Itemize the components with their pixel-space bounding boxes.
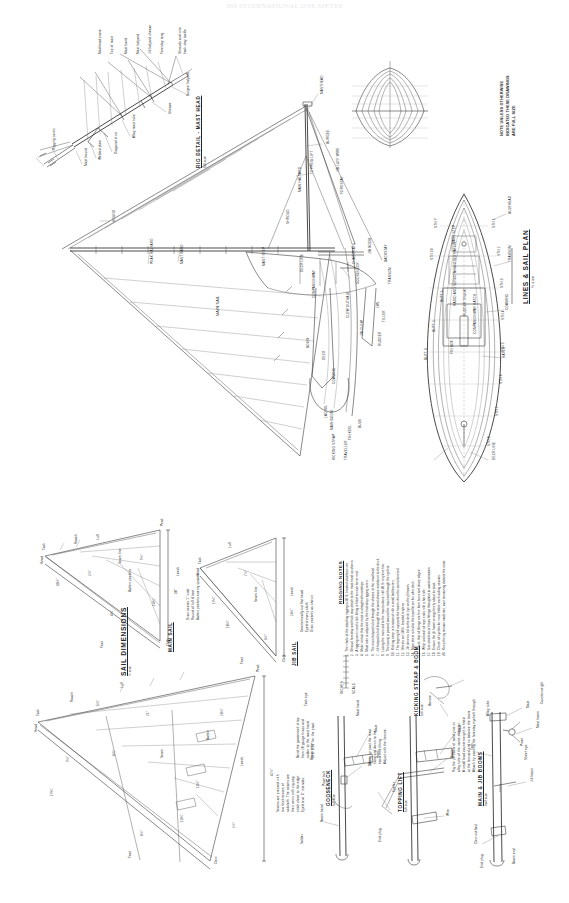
- masthead-label-11: Diagonal strut: [114, 132, 118, 154]
- sailplan-label-9: JIB BOOM: [368, 238, 372, 254]
- sailplan-label-21: COAMING: [332, 368, 336, 384]
- sailplan-label-20: DECK: [322, 351, 326, 360]
- main-sail-label-1: Luff: [96, 534, 100, 540]
- sailplan-label-12: LACING: [324, 405, 328, 418]
- topping-label-3: Eyelet: [392, 782, 396, 792]
- body-plan-sections: [352, 61, 428, 148]
- masthead-label-3: Jib halyard sheave: [148, 25, 152, 54]
- large-sail-dim-7: 21": [146, 711, 150, 716]
- sailplan-label-3: MAIN HALYARD: [298, 167, 302, 192]
- rigging-notes-body: 1. The whole of the standing rigging is …: [345, 558, 447, 656]
- sailplan-label-19: COMPANIONWAY: [312, 270, 316, 298]
- topping-lift-detail-drawing: [378, 716, 456, 865]
- large-sail-dim-2: 28¼": [220, 708, 224, 716]
- sailplan-label-22: TRANSOM: [388, 267, 392, 284]
- hullplan-label-16: STN 4: [501, 310, 505, 320]
- drawing-sheet: .s1{fill:none;stroke:#2a2a2a;stroke-widt…: [0, 16, 569, 903]
- booms-label-0: Mast: [526, 700, 530, 708]
- large-sail-label-6: Peak: [256, 664, 260, 672]
- topping-label-6: End plug: [378, 828, 382, 842]
- booms-label-7: Sheet eye: [524, 744, 528, 760]
- main-sail-label-4: Tack: [42, 543, 46, 550]
- jib-sail-label-2: Leech: [290, 587, 294, 596]
- topping-label-4: Bowsie: [428, 695, 432, 706]
- hullplan-label-1: TRANSOM: [508, 245, 512, 262]
- jib-sail-dim-0: 24½": [290, 608, 294, 616]
- general-note-line3: ARE FULL SIZE: [512, 105, 516, 136]
- topping-label-2: Wire: [446, 809, 450, 816]
- hullplan-label-20: STN 8: [487, 436, 491, 446]
- masthead-label-1: back stay tackle: [183, 29, 187, 54]
- sailplan-label-2: TOPPING LIFT: [310, 151, 314, 175]
- jib-sail-dim-3: 3½": [264, 634, 268, 640]
- large-sail-note-4: stitch close to the edge.: [296, 774, 300, 812]
- title-main-boom-scale: half size: [484, 793, 488, 806]
- large-sail-label-7: Roach: [70, 692, 74, 702]
- sailplan-label-24: BULB: [358, 419, 362, 428]
- sailplan-label-8: JIB LUFF WIRE: [336, 147, 340, 172]
- large-sail-label-8: Batten: [206, 730, 210, 740]
- hullplan-label-11: BUTT 2: [432, 320, 436, 332]
- topping-note-0: Bring up past the mast: [368, 729, 372, 764]
- large-sail-note-3: then sewn with zig-zag: [291, 776, 295, 812]
- title-main-boom: MAIN & JIB BOOMS: [478, 751, 483, 806]
- large-sail-dim-5: 13¾": [180, 814, 184, 822]
- booms-note-2: A small lead counterweight is fitted: [462, 717, 466, 772]
- booms-note-3: at the forward end to balance the boom.: [467, 710, 471, 773]
- main-sail-note-2: Batten pockets evenly spaced: [196, 573, 200, 620]
- gooseneck-note-1: from 20 gauge brass and: [301, 719, 305, 758]
- hullplan-label-13: STN 1: [492, 218, 496, 228]
- jib-sail-note-0: Geometrically cut flat head: [300, 590, 304, 632]
- jib-sail-label-0: Head: [196, 568, 200, 576]
- jib-sail-label-6: Seam line: [254, 586, 258, 602]
- hullplan-label-5: RUDDER TRUNK: [463, 289, 467, 316]
- hullplan-label-15: STN 3: [500, 278, 504, 288]
- sailplan-label-11: MAIN SAIL: [216, 295, 220, 316]
- masthead-label-13: Mast hound: [84, 148, 88, 166]
- hullplan-label-6: RADIO AND SERVO MOUNTING HATCH: [453, 242, 457, 306]
- title-kicking-strap-scale: full size: [420, 704, 424, 716]
- jib-sail-label-4: Tack: [198, 557, 202, 564]
- booms-label-2: Jib boom: [530, 768, 534, 782]
- main-sail-dim-2: 9½": [140, 554, 144, 560]
- hullplan-label-7: DECK LINE: [492, 442, 496, 460]
- title-lines-sail-plan: LINES & SAIL PLAN: [522, 230, 529, 304]
- gooseneck-label-3: Boom band: [320, 804, 324, 822]
- title-rig-detail-head: RIG DETAIL - MAST HEAD: [196, 96, 201, 168]
- booms-label-3: Clew outhaul: [474, 824, 478, 844]
- hullplan-label-17: STN 5: [501, 342, 505, 352]
- gooseneck-label-4: Mast band: [356, 700, 360, 716]
- hullplan-label-14: STN 2: [497, 246, 501, 256]
- large-sail-note-0: Seams are pressed with: [276, 774, 280, 812]
- large-sail-dim-8: 16½": [196, 780, 200, 788]
- large-sail-note-5: Eyelets at 6" intervals.: [301, 777, 305, 812]
- jib-sail-dim-2: 7½": [244, 570, 248, 576]
- sail-dims-main-diagram: [45, 530, 170, 648]
- booms-note-1: alloy tube of the same diameter.: [457, 722, 461, 772]
- hullplan-label-4: COMPANIONWAY HATCH: [473, 294, 477, 334]
- main-sail-dim-1: 38½": [56, 578, 60, 586]
- title-gooseneck-scale: full size: [332, 794, 336, 806]
- large-sail-label-1: Luff: [120, 682, 124, 688]
- sailplan-label-4: MAST BAND: [180, 244, 184, 264]
- sailplan-label-25: LWL: [376, 301, 380, 308]
- sailplan-label-27: TILLER: [382, 310, 386, 322]
- large-sail-dim-3: 8½": [140, 830, 144, 836]
- scale-bar-unit: INCHES: [340, 681, 344, 694]
- large-sail-dim-1: 19¾": [50, 788, 54, 796]
- large-sail-label-3: Foot: [128, 851, 132, 858]
- hull-lines-plan: [427, 192, 512, 484]
- main-sail-label-2: Leech: [176, 567, 180, 576]
- jib-sail-dim-1: 19½": [212, 596, 216, 604]
- masthead-label-2: Forestay tang: [160, 32, 164, 54]
- title-rig-detail-head-scale: full size: [203, 156, 207, 168]
- main-sail-label-7: Peak: [160, 518, 164, 526]
- main-sail-label-6: Batten pockets: [128, 569, 132, 592]
- jib-sail-dim-4: 10¼": [226, 620, 230, 628]
- topping-note-3: Adjust with the bowsie.: [383, 728, 387, 764]
- jib-sail-label-5: Clew: [282, 654, 286, 662]
- gooseneck-label-6: Solder: [300, 834, 304, 844]
- hullplan-label-0: BULKHEAD: [508, 196, 512, 214]
- hullplan-label-21: STN 9: [434, 218, 438, 228]
- gooseneck-label-2: Pivot bolt: [322, 771, 326, 786]
